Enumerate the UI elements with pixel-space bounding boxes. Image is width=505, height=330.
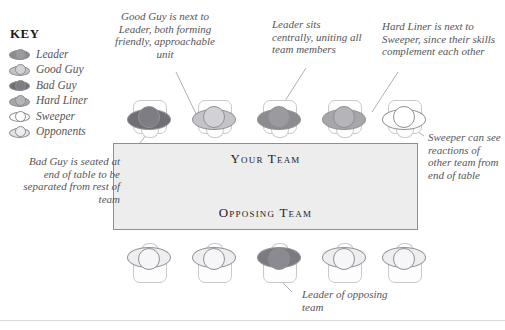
key-title: KEY bbox=[10, 26, 118, 42]
person-head-icon bbox=[138, 106, 160, 128]
annotation-sweeper: Sweeper can see reactions of other team … bbox=[428, 131, 504, 181]
seat-opposing-5[interactable] bbox=[377, 237, 431, 283]
person-head-icon bbox=[138, 248, 160, 270]
seat-your-team-sweeper[interactable] bbox=[377, 98, 431, 144]
key-item-hard-liner: Hard Liner bbox=[8, 93, 118, 109]
seat-opposing-leader[interactable] bbox=[252, 237, 306, 283]
annotation-good-guy: Good Guy is next to Leader, both forming… bbox=[112, 10, 218, 60]
footer-divider bbox=[0, 320, 505, 321]
sweeper-icon bbox=[8, 109, 30, 122]
annotation-bad-guy: Bad Guy is seated at end of table to be … bbox=[16, 155, 120, 205]
key-item-bad-guy: Bad Guy bbox=[8, 77, 118, 93]
your-team-label: Your Team bbox=[114, 151, 417, 167]
key-item-good-guy: Good Guy bbox=[8, 62, 118, 78]
seat-opposing-1[interactable] bbox=[122, 237, 176, 283]
opposing-team-label: Opposing Team bbox=[114, 205, 417, 221]
key-item-label: Bad Guy bbox=[36, 79, 77, 91]
annotation-hard-liner: Hard Liner is next to Sweeper, since the… bbox=[382, 20, 504, 58]
person-head-icon bbox=[203, 106, 225, 128]
person-head-icon bbox=[333, 106, 355, 128]
key-item-label: Leader bbox=[36, 48, 69, 60]
person-head-icon bbox=[333, 248, 355, 270]
key-item-label: Sweeper bbox=[36, 110, 75, 122]
conference-table: Your Team Opposing Team bbox=[113, 143, 418, 230]
seat-your-team-bad-guy[interactable] bbox=[122, 98, 176, 144]
annotation-leader-central: Leader sits centrally, uniting all team … bbox=[272, 18, 364, 56]
leader-icon bbox=[8, 47, 30, 60]
key-legend: KEY Leader Good Guy Bad Guy Hard Liner bbox=[8, 26, 118, 139]
seat-your-team-leader[interactable] bbox=[252, 98, 306, 144]
seat-your-team-hard-liner[interactable] bbox=[317, 98, 371, 144]
key-item-label: Opponents bbox=[36, 125, 86, 137]
person-head-icon bbox=[393, 248, 415, 270]
seat-opposing-2[interactable] bbox=[187, 237, 241, 283]
annotation-opposing-leader: Leader of opposing team bbox=[302, 288, 408, 313]
key-item-leader: Leader bbox=[8, 46, 118, 62]
person-head-icon bbox=[268, 248, 290, 270]
key-item-opponents: Opponents bbox=[8, 124, 118, 140]
seat-your-team-good-guy[interactable] bbox=[187, 98, 241, 144]
bad-guy-icon bbox=[8, 78, 30, 91]
key-item-label: Good Guy bbox=[36, 63, 84, 75]
key-item-label: Hard Liner bbox=[36, 94, 88, 106]
diagram-canvas: KEY Leader Good Guy Bad Guy Hard Liner bbox=[0, 0, 505, 330]
good-guy-icon bbox=[8, 63, 30, 76]
seat-opposing-4[interactable] bbox=[317, 237, 371, 283]
key-item-sweeper: Sweeper bbox=[8, 108, 118, 124]
person-head-icon bbox=[268, 106, 290, 128]
hard-liner-icon bbox=[8, 94, 30, 107]
person-head-icon bbox=[393, 106, 415, 128]
person-head-icon bbox=[203, 248, 225, 270]
opponents-icon bbox=[8, 125, 30, 138]
